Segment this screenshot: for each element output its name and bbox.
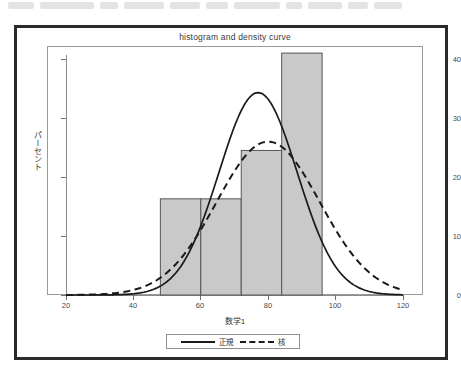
legend-entry-kernel: 核 [240,336,285,347]
histogram-bar [241,150,281,295]
legend-label: 核 [278,336,285,347]
histogram-bar [282,53,322,295]
legend-entry-normal: 正規 [181,336,233,347]
dashed-line-swatch-icon [240,341,274,343]
plot-canvas [0,0,461,373]
histogram-bar [201,199,241,295]
legend-label: 正規 [219,336,233,347]
legend: 正規 核 [166,334,300,349]
solid-line-swatch-icon [181,341,215,343]
histogram-bar [160,199,200,295]
